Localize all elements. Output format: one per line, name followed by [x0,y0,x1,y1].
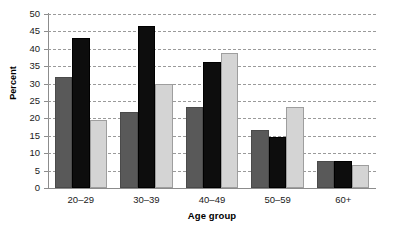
y-tick-mark [44,136,48,137]
bar [286,107,304,188]
y-tick-label: 20 [18,113,40,123]
y-tick-mark [44,153,48,154]
bar [186,107,204,188]
y-tick-mark [44,31,48,32]
x-axis-title: Age group [48,210,376,221]
y-tick-mark [44,66,48,67]
x-tick-label: 60+ [313,194,373,205]
y-tick-label: 25 [18,96,40,106]
y-tick-mark [44,118,48,119]
bar [55,77,73,188]
x-axis-line [48,188,376,189]
y-tick-mark [44,171,48,172]
y-tick-label: 15 [18,131,40,141]
bar-chart: Percent 05101520253035404550 20–2930–394… [0,0,395,236]
bar [138,26,156,188]
y-tick-label: 10 [18,148,40,158]
x-tick-label: 40–49 [182,194,242,205]
plot-area [48,14,376,188]
bar [90,120,108,188]
bar [120,112,138,188]
bar [221,53,239,188]
y-tick-mark [44,188,48,189]
gridline [48,31,376,32]
bar [352,165,370,188]
y-tick-label: 40 [18,44,40,54]
y-tick-label: 5 [18,166,40,176]
y-tick-mark [44,14,48,15]
x-tick-label: 20–29 [51,194,111,205]
x-tick-label: 50–59 [248,194,308,205]
bar [203,62,221,188]
y-tick-label: 30 [18,79,40,89]
bar [334,161,352,188]
bar [155,84,173,188]
y-tick-mark [44,101,48,102]
y-axis-title: Percent [8,48,18,118]
bar [251,130,269,188]
y-tick-label: 45 [18,26,40,36]
y-tick-label: 50 [18,9,40,19]
gridline [48,49,376,50]
y-tick-mark [44,84,48,85]
y-tick-label: 35 [18,61,40,71]
gridline [48,14,376,15]
y-tick-mark [44,49,48,50]
bar [72,38,90,188]
bar [269,137,287,188]
y-tick-label: 0 [18,183,40,193]
bar [317,161,335,188]
x-tick-label: 30–39 [116,194,176,205]
